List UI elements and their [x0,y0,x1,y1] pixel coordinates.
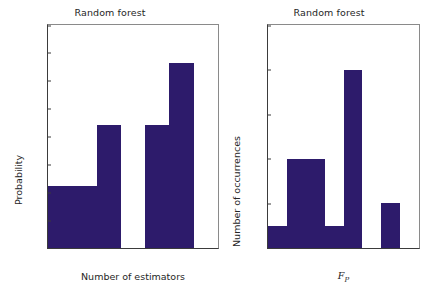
x-tick-mark [193,248,194,249]
x-tick: 35 [140,248,150,249]
x-tick-mark [96,248,97,249]
y-tick-mark [48,192,51,193]
histogram-bar [381,203,400,248]
y-tick-mark [48,109,51,110]
x-tick-mark [305,248,306,249]
x-tick-mark [286,248,287,249]
y-tick-mark [48,137,51,138]
y-tick-mark [48,25,51,26]
histogram-bar [287,159,306,248]
x-axis-label-left: Number of estimators [47,271,219,282]
y-tick-mark [268,248,271,249]
histogram-bar [97,125,121,248]
plot-area-right: 0246810 0.600.650.700.750.800.850.900.95… [267,24,420,249]
y-tick-mark [48,53,51,54]
y-tick-mark [268,25,271,26]
x-tick-mark [267,248,268,249]
x-tick: 0.60 [267,248,276,249]
y-tick: 0.02 [47,183,48,202]
y-tick-mark [268,159,271,160]
x-tick-mark [169,248,170,249]
y-tick: 0.03 [47,155,48,174]
y-tick-mark [48,164,51,165]
x-tick-mark [120,248,121,249]
chart-title-left: Random forest [0,7,220,18]
x-tick-mark [343,248,344,249]
x-tick: 0.80 [335,248,352,249]
x-tick: 0.70 [297,248,314,249]
plot-area-left: 0.000.010.020.030.040.050.060.070.08 152… [47,24,219,249]
x-tick-mark [47,248,48,249]
y-tick: 0.08 [47,24,48,35]
bar-series-left [48,25,218,248]
histogram-bar [48,186,72,248]
y-tick-mark [268,70,271,71]
y-axis-label-right: Number of occurrences [231,136,242,247]
x-tick: 0.95 [392,248,409,249]
y-tick: 6 [267,105,268,124]
y-tick-mark [268,114,271,115]
x-tick-mark [400,248,401,249]
x-tick: 45 [189,248,199,249]
histogram-bar [344,70,363,248]
x-tick: 20 [67,248,77,249]
chart-title-right: Random forest [219,7,439,18]
histogram-bar [169,63,193,248]
x-tick-mark [381,248,382,249]
y-tick: 8 [267,60,268,79]
y-tick: 0.05 [47,99,48,118]
x-tick-mark [145,248,146,249]
y-tick: 0.07 [47,43,48,62]
bar-series-right [268,25,419,248]
x-tick: 0.75 [316,248,333,249]
y-tick: 2 [267,194,268,213]
y-tick: 4 [267,149,268,168]
histogram-bar [145,125,169,248]
x-axis-label-right: FP [267,270,420,284]
histogram-bar [325,226,344,248]
x-tick-mark [418,248,419,249]
y-tick: 0.04 [47,127,48,146]
histogram-bar [306,159,325,248]
histogram-bar [72,186,96,248]
x-tick: 25 [92,248,102,249]
x-tick: 30 [116,248,126,249]
x-tick: 0.90 [373,248,390,249]
y-axis-label-left: Probability [13,155,24,205]
x-axis-label-subscript: P [344,276,349,284]
y-tick: 0.01 [47,211,48,230]
x-tick-mark [362,248,363,249]
chart-panel-left: Random forest 0.000.010.020.030.040.050.… [0,0,220,294]
x-tick-mark [72,248,73,249]
y-tick: 10 [267,24,268,35]
y-tick-mark [48,220,51,221]
x-tick: 15 [47,248,53,249]
x-tick-mark [324,248,325,249]
y-tick-mark [48,81,51,82]
figure-canvas: Random forest 0.000.010.020.030.040.050.… [0,0,439,294]
y-tick-mark [268,203,271,204]
x-tick: 0.65 [278,248,295,249]
chart-panel-right: Random forest 0246810 0.600.650.700.750.… [219,0,439,294]
y-tick-mark [48,248,51,249]
histogram-bar [268,226,287,248]
y-tick: 0.06 [47,71,48,90]
x-tick: 0.85 [354,248,371,249]
x-tick: 1.00 [411,248,420,249]
x-tick: 40 [165,248,175,249]
